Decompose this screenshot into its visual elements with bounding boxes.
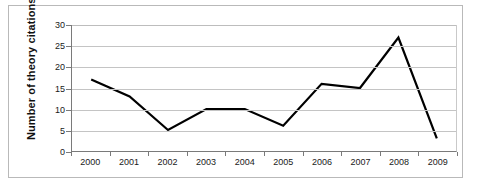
gridline-30	[72, 25, 456, 26]
x-axis-tick-0	[71, 152, 72, 156]
y-axis-tick-label-0: 0	[45, 148, 65, 157]
y-axis-tick-label-20: 20	[45, 63, 65, 72]
y-axis-tick-label-30: 30	[45, 21, 65, 30]
y-axis-tick-labels: 051015202530	[45, 18, 65, 160]
gridline-25	[72, 46, 456, 47]
gridline-5	[72, 131, 456, 132]
y-axis-tick-30	[66, 25, 71, 26]
gridline-20	[72, 67, 456, 68]
y-axis-tick-10	[66, 110, 71, 111]
x-axis-tick-2	[148, 152, 149, 156]
x-axis-tick-3	[187, 152, 188, 156]
x-axis-tick-6	[303, 152, 304, 156]
y-axis-tick-label-25: 25	[45, 42, 65, 51]
y-axis-tick-label-15: 15	[45, 84, 65, 93]
gridline-15	[72, 89, 456, 90]
chart-figure: Number of theory citations 051015202530 …	[0, 0, 482, 189]
x-axis-tick-5	[264, 152, 265, 156]
x-axis-tick-10	[457, 152, 458, 156]
series-line-theory-citations	[91, 38, 437, 139]
y-axis-tick-label-10: 10	[45, 105, 65, 114]
y-axis-title: Number of theory citations	[25, 0, 37, 140]
x-axis-tick-9	[418, 152, 419, 156]
y-axis-tick-15	[66, 89, 71, 90]
chart-frame: Number of theory citations 051015202530 …	[8, 5, 463, 178]
y-axis-tick-25	[66, 46, 71, 47]
x-axis-tick-label-2009: 2009	[415, 158, 461, 167]
x-axis-tick-4	[225, 152, 226, 156]
gridline-10	[72, 110, 456, 111]
plot-area	[71, 25, 457, 152]
y-axis-tick-5	[66, 131, 71, 132]
x-axis-tick-1	[110, 152, 111, 156]
x-axis-tick-7	[341, 152, 342, 156]
y-axis-tick-20	[66, 67, 71, 68]
y-axis-tick-label-5: 5	[45, 126, 65, 135]
x-axis-tick-8	[380, 152, 381, 156]
line-series	[72, 25, 456, 151]
